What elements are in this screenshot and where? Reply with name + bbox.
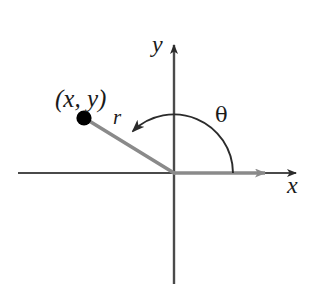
y-axis-label: y [152,32,163,56]
polar-coordinate-figure: (x, y) r θ y x [0,0,325,288]
radius-label: r [113,107,121,128]
angle-theta-label: θ [215,105,228,126]
terminal-side-ray [86,119,174,173]
plotted-point-dot [76,110,91,125]
point-coordinates-label: (x, y) [55,86,106,111]
x-axis-label: x [287,173,298,197]
